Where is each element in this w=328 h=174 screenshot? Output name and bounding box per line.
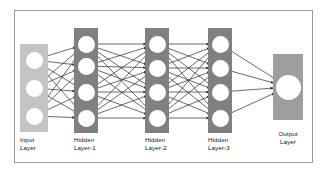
- layer-label-output-layer: Output Layer: [273, 130, 303, 145]
- neuron-output-layer-1: [276, 75, 301, 100]
- layer-label-hidden-layer-3: Hidden Layer-3: [208, 136, 230, 151]
- neuron-hidden-layer-3-1: [212, 36, 229, 53]
- connection-edge: [164, 74, 212, 112]
- neuron-hidden-layer-3-4: [212, 110, 229, 127]
- neuron-hidden-layer-1-1: [78, 36, 95, 53]
- neuron-hidden-layer-1-4: [78, 110, 95, 127]
- connection-edge: [228, 49, 276, 79]
- connection-edge: [165, 96, 210, 114]
- neuron-hidden-layer-1-2: [78, 58, 95, 75]
- connection-edge: [228, 93, 274, 114]
- neuron-hidden-layer-2-3: [149, 84, 166, 101]
- neuron-hidden-layer-2-2: [149, 60, 166, 77]
- neuron-input-layer-3: [26, 108, 43, 125]
- layer-label-hidden-layer-1: Hidden Layer-1: [74, 136, 96, 151]
- neuron-hidden-layer-3-3: [212, 84, 229, 101]
- neural-network-diagram: Input LayerHidden Layer-1Hidden Layer-2H…: [0, 0, 328, 174]
- layer-label-input-layer: Input Layer: [20, 136, 36, 151]
- connection-edge: [94, 69, 147, 88]
- neuron-input-layer-1: [26, 52, 43, 69]
- connection-edge: [93, 71, 148, 111]
- neuron-hidden-layer-3-2: [212, 60, 229, 77]
- connection-edge: [229, 88, 273, 91]
- neuron-hidden-layer-1-3: [78, 84, 95, 101]
- neuron-hidden-layer-2-4: [149, 110, 166, 127]
- layer-label-hidden-layer-2: Hidden Layer-2: [145, 136, 167, 151]
- neuron-hidden-layer-2-1: [149, 36, 166, 53]
- neuron-input-layer-2: [26, 80, 43, 97]
- connection-edge: [229, 70, 274, 83]
